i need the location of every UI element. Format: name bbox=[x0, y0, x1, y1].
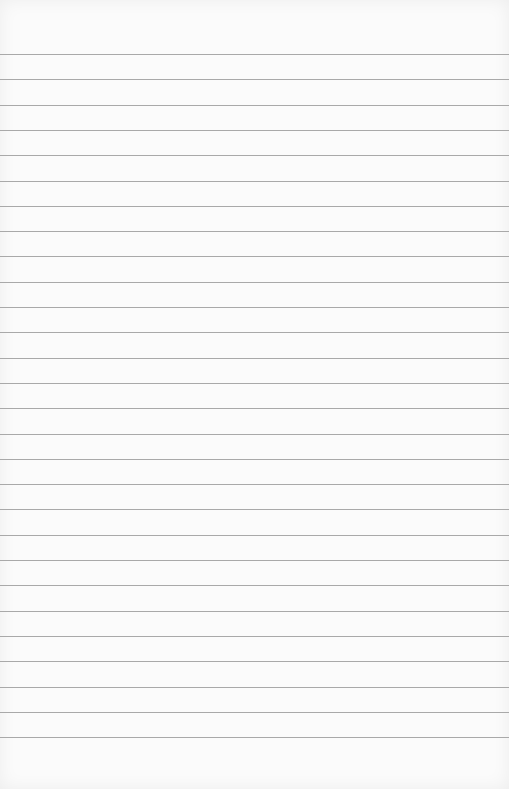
ruled-line bbox=[0, 611, 509, 612]
ruled-line bbox=[0, 79, 509, 80]
ruled-line bbox=[0, 282, 509, 283]
lined-paper bbox=[0, 0, 509, 789]
ruled-line bbox=[0, 332, 509, 333]
ruled-line bbox=[0, 737, 509, 738]
ruled-line bbox=[0, 181, 509, 182]
ruled-line bbox=[0, 535, 509, 536]
ruled-line bbox=[0, 484, 509, 485]
ruled-line bbox=[0, 206, 509, 207]
ruled-line bbox=[0, 231, 509, 232]
ruled-line bbox=[0, 459, 509, 460]
ruled-line bbox=[0, 434, 509, 435]
ruled-line bbox=[0, 54, 509, 55]
ruled-line bbox=[0, 585, 509, 586]
ruled-line bbox=[0, 130, 509, 131]
ruled-line bbox=[0, 383, 509, 384]
ruled-line bbox=[0, 155, 509, 156]
ruled-line bbox=[0, 105, 509, 106]
ruled-line bbox=[0, 636, 509, 637]
ruled-line bbox=[0, 560, 509, 561]
ruled-line bbox=[0, 358, 509, 359]
ruled-line bbox=[0, 307, 509, 308]
ruled-line bbox=[0, 712, 509, 713]
ruled-line bbox=[0, 408, 509, 409]
ruled-line bbox=[0, 256, 509, 257]
ruled-line bbox=[0, 661, 509, 662]
ruled-line bbox=[0, 509, 509, 510]
ruled-line bbox=[0, 687, 509, 688]
